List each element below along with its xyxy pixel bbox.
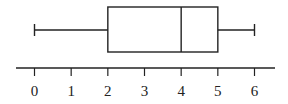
iqr-box <box>108 7 218 52</box>
tick-label: 1 <box>67 83 75 99</box>
chart-canvas: 0123456 <box>0 0 288 104</box>
tick-label: 2 <box>104 83 112 99</box>
tick-label: 0 <box>31 83 39 99</box>
tick-label: 6 <box>251 83 259 99</box>
box-plot <box>35 7 255 52</box>
tick-label: 5 <box>214 83 222 99</box>
tick-label: 4 <box>177 83 185 99</box>
number-line-axis: 0123456 <box>16 68 275 99</box>
tick-label: 3 <box>141 83 149 99</box>
